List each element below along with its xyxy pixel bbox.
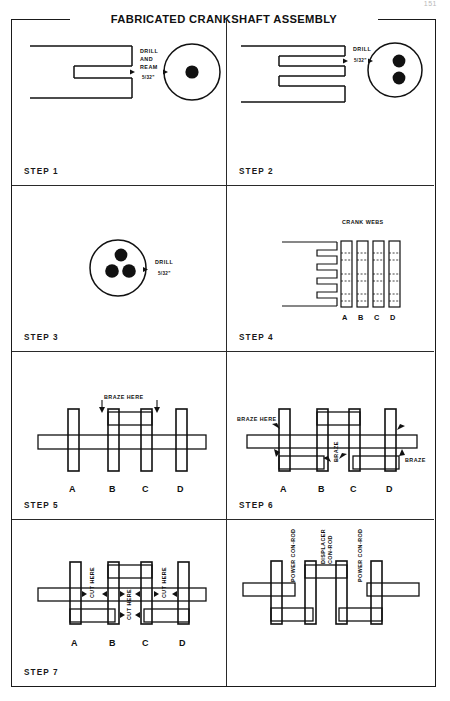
crank-web-A <box>271 561 282 624</box>
crank-web-C <box>141 562 152 624</box>
braze-label-right: BRAZE <box>405 457 426 463</box>
crank-web-D <box>385 409 396 471</box>
page-number: 151 <box>424 0 437 7</box>
channel-side-view-two-slots <box>241 46 345 102</box>
crank-pin-BC <box>108 412 152 425</box>
crank-pin-CD-lower <box>144 609 189 622</box>
cut-here-label-1: CUT HERE <box>89 567 95 598</box>
page: 151 FABRICATED CRANKSHAFT ASSEMBLY <box>0 0 450 701</box>
panel-step-5: BRAZE HERE A B C D STEP 5 <box>12 352 227 520</box>
end-view-circle-three-holes <box>90 240 148 296</box>
step-label-1: STEP 1 <box>24 167 59 176</box>
braze-here-label: BRAZE HERE <box>237 416 277 422</box>
step-label-4: STEP 4 <box>239 333 274 342</box>
crank-web-B <box>108 562 119 624</box>
crank-web-A <box>341 241 352 307</box>
steps-grid: DRILL AND REAM 5/32" STEP 1 <box>12 20 434 686</box>
hole-top <box>115 249 128 262</box>
cut-here-label-2: CUT HERE <box>126 589 132 620</box>
crank-web-B <box>317 409 328 471</box>
panel-finished-assembly: POWER CON-ROD DISPLACER CON-ROD POWER CO… <box>227 520 434 686</box>
braze-arrow-D-bottom <box>399 449 405 456</box>
finished-assembly-drawing: POWER CON-ROD DISPLACER CON-ROD POWER CO… <box>227 520 434 686</box>
leader-tick-slot <box>130 70 135 75</box>
drill-label: DRILL <box>140 48 158 54</box>
dimension-label: 5/32" <box>354 58 367 63</box>
main-shaft <box>247 435 417 448</box>
step-5-drawing: BRAZE HERE A B C D <box>12 352 227 520</box>
web-letter-D: D <box>179 638 186 648</box>
leader-tick-circle <box>163 70 168 75</box>
main-shaft <box>38 435 206 449</box>
web-letter-D: D <box>390 313 396 322</box>
panel-step-6: BRAZE HERE BRAZE BRAZE A B C D STEP 6 <box>227 352 434 520</box>
web-letter-B: B <box>318 484 325 494</box>
step-1-drawing: DRILL AND REAM 5/32" <box>12 20 227 186</box>
panel-step-4: CRANK WEBS <box>227 186 434 352</box>
web-letter-B: B <box>109 638 116 648</box>
braze-arrow-right <box>154 400 160 413</box>
stub-shaft-left <box>243 583 295 596</box>
and-label: AND <box>140 56 153 62</box>
stub-shaft-right <box>367 583 419 596</box>
crank-web-D <box>371 561 382 624</box>
panel-step-2: DRILL 5/32" STEP 2 <box>227 20 434 186</box>
dimension-label: 5/32" <box>158 271 171 276</box>
braze-label-centre: BRAZE <box>333 441 339 462</box>
web-letter-C: C <box>142 484 149 494</box>
panel-step-3: DRILL 5/32" STEP 3 <box>12 186 227 352</box>
hole-left <box>105 264 119 278</box>
step-2-drawing: DRILL 5/32" <box>227 20 434 186</box>
power-con-rod-left-label: POWER CON-ROD <box>290 529 296 582</box>
crank-web-B <box>357 241 368 307</box>
step-label-2: STEP 2 <box>239 167 274 176</box>
web-letter-B: B <box>358 313 364 322</box>
crank-web-A <box>70 562 81 624</box>
crank-web-B <box>305 561 316 624</box>
panel-step-1: DRILL AND REAM 5/32" STEP 1 <box>12 20 227 186</box>
braze-here-label: BRAZE HERE <box>104 394 144 400</box>
drill-label: DRILL <box>155 259 173 265</box>
end-view-circle <box>368 43 422 97</box>
web-letter-A: A <box>71 638 78 648</box>
leader-tick-slot <box>343 59 348 64</box>
step-4-drawing: CRANK WEBS <box>227 186 434 352</box>
crank-web-A <box>279 409 290 471</box>
crank-web-C <box>336 561 347 624</box>
web-letter-B: B <box>109 484 116 494</box>
step-label-3: STEP 3 <box>24 333 59 342</box>
crank-pin-AB-lower <box>271 608 313 621</box>
step-7-drawing: CUT HERE CUT HERE CUT HERE <box>12 520 227 686</box>
crank-webs-label: CRANK WEBS <box>342 219 384 225</box>
dimension-label: 5/32" <box>142 75 155 80</box>
crank-web-D <box>176 409 187 471</box>
crank-web-A <box>68 409 79 471</box>
channel-side-view <box>30 46 132 98</box>
hole-centre <box>185 65 198 78</box>
braze-arrow-C <box>339 453 347 459</box>
ream-label: REAM <box>140 64 158 70</box>
crank-pin-BC-upper <box>317 412 360 425</box>
braze-arrow-left <box>99 400 105 413</box>
web-letter-A: A <box>280 484 287 494</box>
braze-arrow-D-top <box>397 424 405 430</box>
web-letter-A: A <box>342 313 348 322</box>
web-letter-C: C <box>350 484 357 494</box>
crank-web-C <box>373 241 384 307</box>
hole-right <box>122 264 136 278</box>
step-label-7: STEP 7 <box>24 668 59 677</box>
cut-here-label-3: CUT HERE <box>161 567 167 598</box>
step-6-drawing: BRAZE HERE BRAZE BRAZE A B C D <box>227 352 434 520</box>
web-letter-D: D <box>386 484 393 494</box>
crank-web-D <box>178 562 189 624</box>
step-3-drawing: DRILL 5/32" <box>12 186 227 352</box>
crank-web-C <box>141 409 152 471</box>
crank-web-D <box>389 241 400 307</box>
displacer-label: DISPLACER <box>320 529 326 564</box>
hole-1 <box>393 55 406 68</box>
power-con-rod-right-label: POWER CON-ROD <box>357 529 363 582</box>
step-label-6: STEP 6 <box>239 501 274 510</box>
step-label-5: STEP 5 <box>24 501 59 510</box>
crank-web-B <box>108 409 119 471</box>
web-letter-C: C <box>142 638 149 648</box>
